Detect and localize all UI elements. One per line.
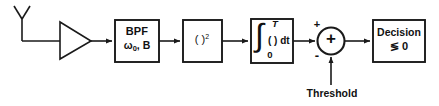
- bpf-bandwidth-label: , B: [137, 39, 150, 51]
- integral-body-label: ( ) dt: [268, 36, 296, 47]
- integral-upper-limit-label: T: [267, 19, 283, 29]
- bpf-omega-symbol: ω: [124, 39, 133, 51]
- summer-negative-input-sign: -: [311, 49, 323, 63]
- antenna-icon: [14, 6, 60, 41]
- bpf-params-label: ω0, B: [114, 40, 160, 53]
- decision-label: Decision: [374, 27, 424, 38]
- squarer-label: ( )2: [183, 33, 221, 45]
- threshold-label: Threshold: [294, 88, 370, 99]
- squarer-exponent-label: 2: [205, 33, 209, 40]
- integral-lower-limit-label: 0: [263, 50, 277, 60]
- decision-test-label: ≶ 0: [374, 41, 424, 53]
- summer-plus-icon: +: [322, 30, 340, 47]
- summer-positive-input-sign: +: [311, 19, 323, 31]
- block-diagram: BPF ω0, B ( )2 ∫ T 0 ( ) dt + - + Decisi…: [0, 0, 439, 106]
- squarer-base-label: ( ): [195, 33, 205, 45]
- bpf-name-label: BPF: [115, 26, 159, 38]
- diagram-canvas: [0, 0, 439, 106]
- amplifier-triangle-icon: [60, 22, 91, 59]
